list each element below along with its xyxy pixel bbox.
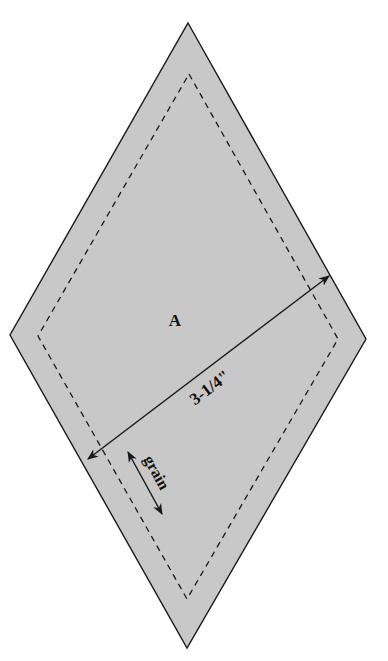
piece-label: A [169, 311, 182, 330]
pattern-piece-outline [10, 23, 366, 648]
diamond-pattern-diagram: A 3-1/4" grain [0, 0, 388, 661]
